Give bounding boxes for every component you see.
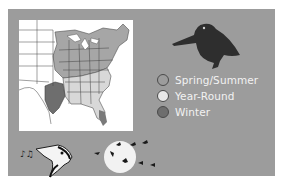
legend-item-year-round: Year-Round (157, 88, 258, 104)
legend-item-winter: Winter (157, 104, 258, 120)
svg-text:♪♫: ♪♫ (20, 149, 34, 159)
range-map (19, 20, 133, 131)
eastern-us-map-icon (19, 20, 133, 131)
legend-label: Year-Round (175, 90, 235, 102)
legend-label: Winter (175, 106, 210, 118)
moon-with-migrating-flock-icon (92, 133, 162, 177)
singing-bird-head-icon: ♪♫ (18, 137, 80, 179)
legend-item-spring-summer: Spring/Summer (157, 72, 258, 88)
year-round-swatch-icon (157, 90, 169, 102)
range-map-panel: Spring/Summer Year-Round Winter ♪♫ (8, 9, 275, 176)
spring-summer-swatch-icon (157, 74, 169, 86)
range-legend: Spring/Summer Year-Round Winter (157, 72, 258, 120)
woodcock-silhouette-icon (168, 13, 248, 75)
winter-swatch-icon (157, 106, 169, 118)
legend-label: Spring/Summer (175, 74, 258, 86)
